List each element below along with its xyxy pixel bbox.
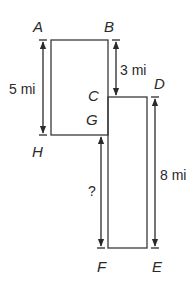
point-label-h: H (32, 143, 43, 160)
rectangle-cdef (108, 97, 147, 248)
point-label-d: D (154, 75, 165, 92)
dimension-arrow-5mi (39, 40, 47, 135)
dimension-label-5mi: 5 mi (9, 81, 35, 97)
point-label-c: C (88, 87, 99, 104)
dimension-arrow-8mi (151, 97, 159, 248)
dimension-label-8mi: 8 mi (160, 167, 186, 183)
rectangle-abhg (51, 40, 108, 135)
diagram-canvas: A B C D E F G H 5 mi 3 mi 8 mi ? (0, 0, 195, 283)
point-label-b: B (104, 18, 114, 35)
point-label-e: E (152, 258, 163, 275)
point-label-a: A (32, 18, 43, 35)
dimension-arrow-unknown (97, 137, 105, 248)
dimension-label-3mi: 3 mi (120, 62, 146, 78)
dimension-label-unknown: ? (88, 183, 96, 199)
dimension-arrow-3mi (112, 40, 120, 95)
point-label-f: F (97, 258, 107, 275)
point-label-g: G (86, 111, 98, 128)
